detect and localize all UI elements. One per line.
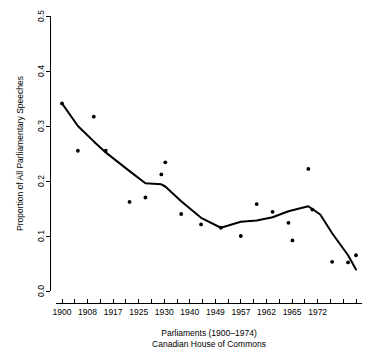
data-point xyxy=(92,115,96,119)
data-point-series xyxy=(60,102,358,265)
y-axis-tick-label: 0.5 xyxy=(36,10,46,22)
data-point xyxy=(291,239,295,243)
y-axis-title: Proportion of All Parliamentary Speeches xyxy=(15,76,25,231)
trend-line-series xyxy=(62,103,356,269)
x-axis-tick-label: 1940 xyxy=(180,307,199,317)
data-point xyxy=(306,167,310,171)
data-point xyxy=(159,173,163,177)
y-axis-tick-label: 0.0 xyxy=(36,285,46,297)
data-point xyxy=(239,234,243,238)
data-point xyxy=(179,212,183,216)
data-point xyxy=(346,261,350,265)
x-axis-tick-label: 1965 xyxy=(283,307,302,317)
x-axis-tick-label: 1900 xyxy=(53,307,72,317)
y-axis: 0.00.10.20.30.40.5 xyxy=(36,10,50,297)
x-axis-title-line2: Canadian House of Commons xyxy=(152,339,266,349)
x-axis-tick-label: 1930 xyxy=(155,307,174,317)
y-axis-tick-label: 0.1 xyxy=(36,230,46,242)
y-axis-tick-label: 0.4 xyxy=(36,65,46,77)
data-point xyxy=(104,149,108,153)
x-axis-tick-label: 1957 xyxy=(231,307,250,317)
x-axis-tick-label: 1917 xyxy=(104,307,123,317)
y-axis-tick-label: 0.3 xyxy=(36,120,46,132)
data-point xyxy=(255,202,259,206)
data-point xyxy=(60,102,64,106)
chart-figure: 0.00.10.20.30.40.5 190019081917192519301… xyxy=(0,0,371,361)
data-point xyxy=(271,210,275,214)
y-axis-tick-label: 0.2 xyxy=(36,175,46,187)
data-point xyxy=(219,226,223,230)
x-axis-tick-label: 1949 xyxy=(206,307,225,317)
data-point xyxy=(128,200,132,204)
data-point xyxy=(310,208,314,212)
data-point xyxy=(163,160,167,164)
x-axis-tick-label: 1925 xyxy=(129,307,148,317)
data-point xyxy=(144,196,148,200)
data-point xyxy=(199,223,203,227)
data-point xyxy=(287,221,291,225)
data-point xyxy=(354,253,358,257)
smoothed-trend-line xyxy=(62,103,356,269)
x-axis-tick-label: 1962 xyxy=(257,307,276,317)
scatter-plot-canvas: 0.00.10.20.30.40.5 190019081917192519301… xyxy=(0,0,371,361)
data-point xyxy=(330,260,334,264)
x-axis-title-line1: Parliaments (1900–1974) xyxy=(161,328,257,338)
x-axis-tick-label: 1972 xyxy=(308,307,327,317)
x-axis: 1900190819171925193019401949195719621965… xyxy=(53,299,362,317)
data-point xyxy=(76,149,80,153)
x-axis-tick-label: 1908 xyxy=(78,307,97,317)
